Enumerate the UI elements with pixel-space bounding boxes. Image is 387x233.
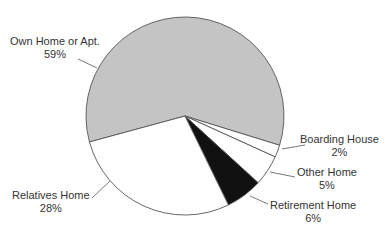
label-other-home-name: Other Home <box>297 166 357 179</box>
label-relatives-home-name: Relatives Home <box>12 189 90 202</box>
label-own-home-value: 59% <box>10 48 100 61</box>
label-own-home: Own Home or Apt. 59% <box>10 35 100 61</box>
label-relatives-home-value: 28% <box>12 202 90 215</box>
label-retirement-home: Retirement Home 6% <box>270 199 356 225</box>
leader-retirement-home <box>250 196 268 204</box>
label-relatives-home: Relatives Home 28% <box>12 189 90 215</box>
leader-other-home <box>270 172 295 177</box>
label-other-home-value: 5% <box>297 179 357 192</box>
label-retirement-home-value: 6% <box>270 212 356 225</box>
label-boarding-house: Boarding House 2% <box>300 133 379 159</box>
label-other-home: Other Home 5% <box>297 166 357 192</box>
label-boarding-house-name: Boarding House <box>300 133 379 146</box>
label-own-home-name: Own Home or Apt. <box>10 35 100 48</box>
pie-slices <box>86 17 284 215</box>
label-boarding-house-value: 2% <box>300 146 379 159</box>
leader-relatives-home <box>92 181 110 198</box>
label-retirement-home-name: Retirement Home <box>270 199 356 212</box>
